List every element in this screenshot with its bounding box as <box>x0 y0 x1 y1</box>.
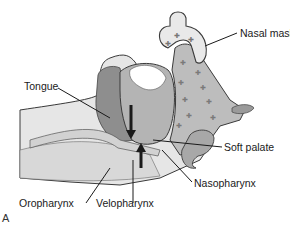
svg-text:✚: ✚ <box>195 69 201 77</box>
svg-text:✚: ✚ <box>176 122 182 130</box>
svg-text:✚: ✚ <box>174 32 180 40</box>
svg-text:✚: ✚ <box>178 79 184 87</box>
svg-text:✚: ✚ <box>186 112 192 120</box>
panel-label: A <box>2 212 9 224</box>
label-soft-palate: Soft palate <box>224 142 274 153</box>
svg-text:✚: ✚ <box>165 40 171 48</box>
svg-text:✚: ✚ <box>210 114 216 122</box>
svg-text:✚: ✚ <box>206 98 212 106</box>
label-velopharynx: Velopharynx <box>96 198 154 209</box>
label-tongue: Tongue <box>24 81 58 92</box>
svg-text:✚: ✚ <box>200 84 206 92</box>
svg-text:✚: ✚ <box>182 96 188 104</box>
svg-text:✚: ✚ <box>180 59 186 67</box>
label-nasopharynx: Nasopharynx <box>194 178 256 189</box>
svg-text:✚: ✚ <box>188 36 194 44</box>
nasal-bone <box>232 105 254 114</box>
label-oropharynx: Oropharynx <box>19 198 74 209</box>
label-nasal-mask: Nasal mask <box>240 28 290 39</box>
